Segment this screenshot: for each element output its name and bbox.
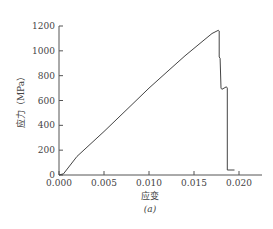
y-tick-label: 800 xyxy=(38,71,55,81)
x-tick-label: 0.015 xyxy=(181,178,207,188)
y-tick-label: 200 xyxy=(38,145,55,155)
chart-caption: (a) xyxy=(144,204,157,214)
x-axis-label: 应变 xyxy=(141,190,159,201)
y-tick-label: 600 xyxy=(38,96,55,106)
y-tick-label: 1200 xyxy=(32,21,55,31)
data-line xyxy=(59,30,235,175)
x-tick-label: 0.010 xyxy=(136,178,162,188)
y-axis-label: 应力（MPa） xyxy=(15,72,26,128)
x-tick-label: 0.020 xyxy=(226,178,252,188)
x-axis: 0.0000.0050.0100.0150.020 xyxy=(46,171,262,188)
x-tick-label: 0.000 xyxy=(46,178,72,188)
x-tick-label: 0.005 xyxy=(91,178,117,188)
y-tick-label: 1000 xyxy=(32,46,55,56)
y-axis: 020040060080010001200 xyxy=(32,21,63,180)
y-tick-label: 400 xyxy=(38,120,55,130)
stress-strain-chart: 020040060080010001200 0.0000.0050.0100.0… xyxy=(0,0,273,229)
